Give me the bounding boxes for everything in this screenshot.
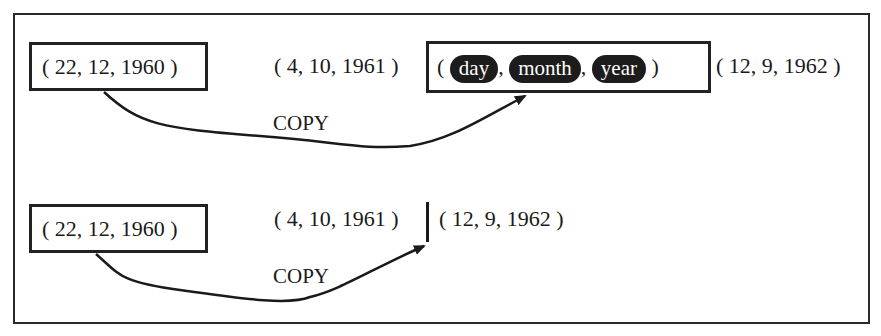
open-paren: ( bbox=[437, 54, 444, 79]
bottom-source-box: ( 22, 12, 1960 ) bbox=[29, 204, 208, 253]
field-year-pill: year bbox=[592, 55, 646, 83]
top-source-record: ( 22, 12, 1960 ) bbox=[42, 54, 178, 80]
top-source-box: ( 22, 12, 1960 ) bbox=[29, 42, 208, 91]
top-after-record: ( 12, 9, 1962 ) bbox=[716, 53, 841, 79]
separator: , bbox=[498, 54, 504, 79]
bottom-copy-label: COPY bbox=[273, 264, 329, 289]
insertion-cursor bbox=[426, 202, 429, 242]
bottom-middle-record: ( 4, 10, 1961 ) bbox=[274, 206, 399, 232]
separator: , bbox=[581, 54, 587, 79]
top-copy-label: COPY bbox=[273, 111, 329, 136]
field-day-pill: day bbox=[450, 55, 498, 83]
top-middle-record: ( 4, 10, 1961 ) bbox=[274, 53, 399, 79]
close-paren: ) bbox=[651, 54, 658, 79]
field-month-pill: month bbox=[509, 55, 581, 83]
target-slot-fields: ( day, month, year ) bbox=[437, 52, 659, 83]
bottom-source-record: ( 22, 12, 1960 ) bbox=[42, 216, 178, 242]
bottom-after-record: ( 12, 9, 1962 ) bbox=[439, 206, 564, 232]
top-target-slot-box: ( day, month, year ) bbox=[426, 41, 711, 93]
